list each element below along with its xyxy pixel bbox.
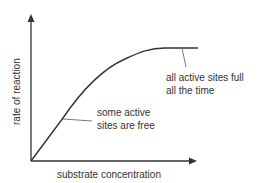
annotation-full-line1: all active sites full bbox=[166, 72, 244, 83]
x-axis bbox=[31, 158, 197, 165]
enzyme-rate-diagram: some active sites are free all active si… bbox=[0, 0, 264, 183]
x-axis-arrow-icon bbox=[189, 158, 197, 165]
annotation-full-line2: all the time bbox=[166, 85, 215, 96]
y-axis bbox=[28, 14, 35, 161]
leader-line-full-sites bbox=[182, 48, 186, 67]
rate-curve bbox=[31, 48, 198, 161]
annotation-free-line2: sites are free bbox=[97, 120, 155, 131]
x-axis-label: substrate concentration bbox=[57, 169, 161, 180]
annotation-free-line1: some active bbox=[97, 107, 151, 118]
y-axis-label: rate of reaction bbox=[11, 58, 22, 125]
leader-line-free-sites bbox=[63, 119, 92, 121]
y-axis-arrow-icon bbox=[28, 14, 35, 22]
